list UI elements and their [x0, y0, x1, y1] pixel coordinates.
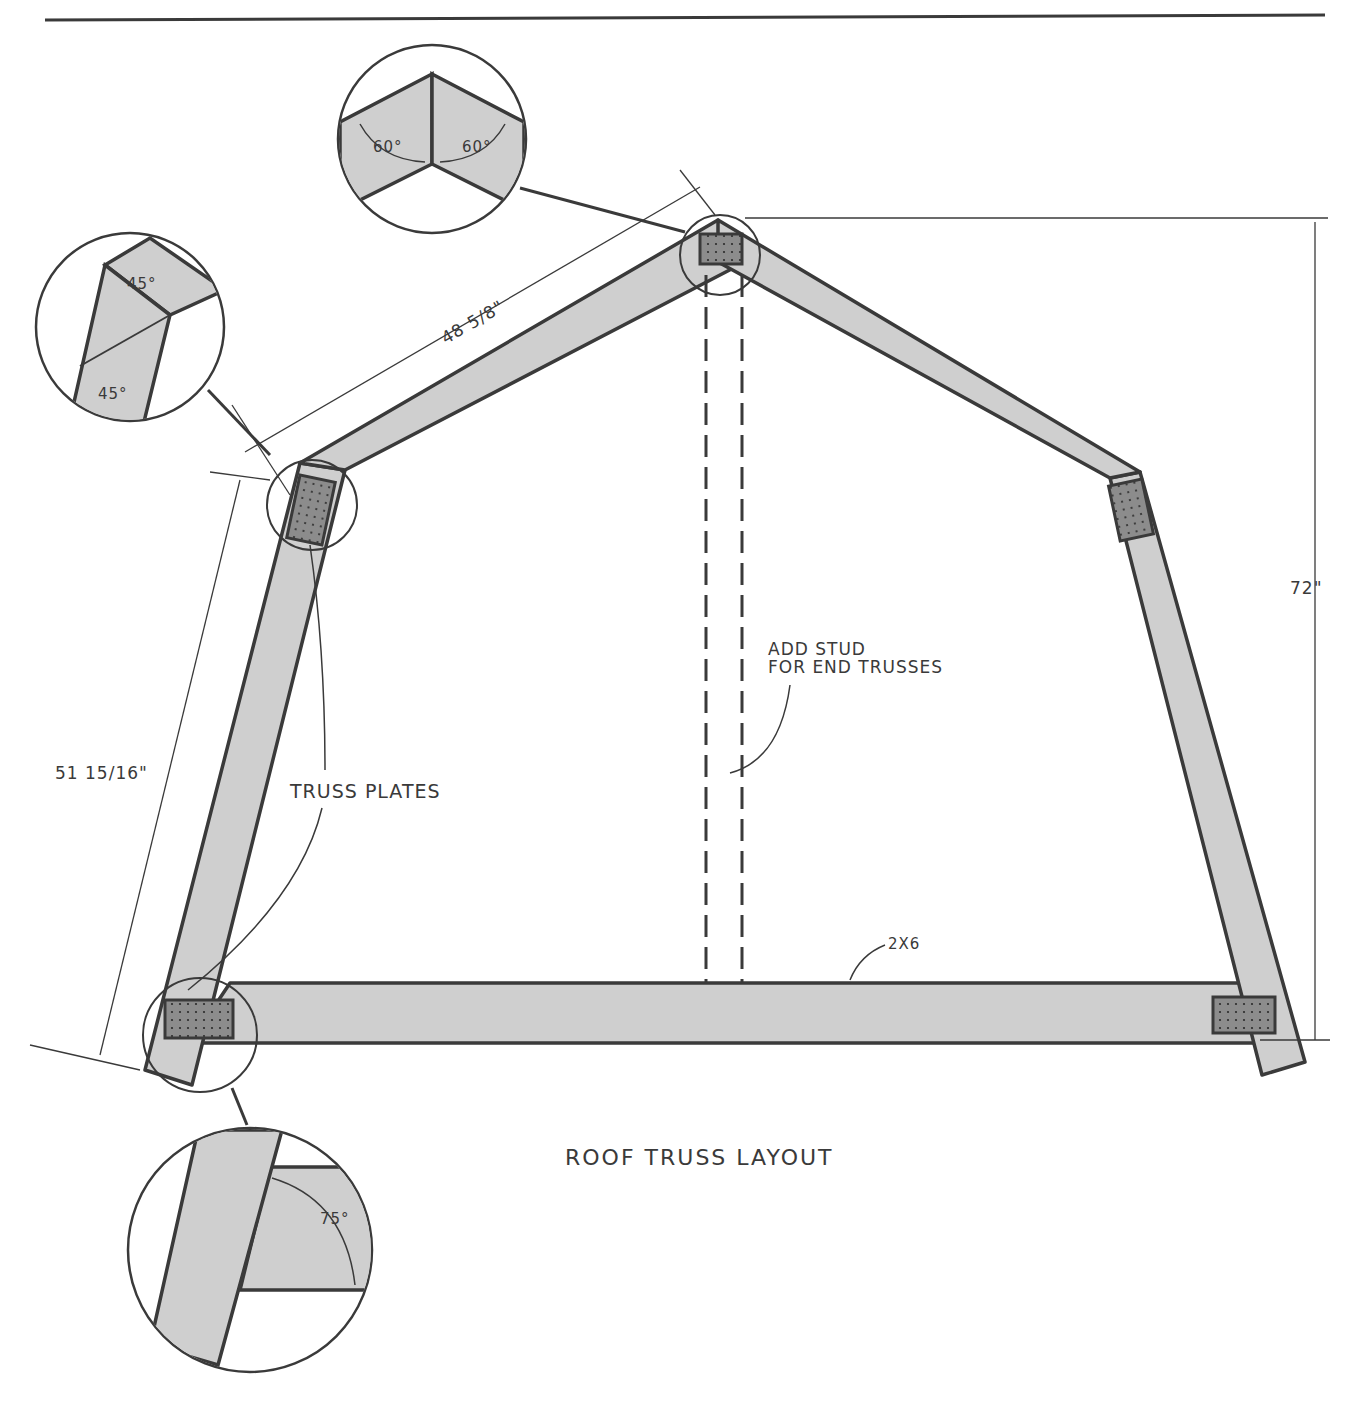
truss-plate-left-heel: [165, 1000, 233, 1038]
ridge-joint-detail: [338, 45, 526, 233]
knee-angle-upper: 45°: [127, 275, 157, 293]
overall-height-dimension: 72": [1290, 578, 1322, 598]
knee-joint-detail: [36, 233, 225, 430]
bottom-chord: [190, 983, 1255, 1043]
lower-chord-dimension: 51 15/16": [55, 763, 148, 783]
truss-plate-right-heel: [1213, 997, 1275, 1033]
heel-joint-detail: [128, 1128, 380, 1372]
ridge-angle-right: 60°: [462, 138, 492, 156]
add-stud-callout: ADD STUD FOR END TRUSSES: [768, 640, 943, 676]
truss-plates-callout: TRUSS PLATES: [290, 780, 441, 802]
right-upper-rafter: [718, 220, 1140, 478]
truss-plate-right-knee: [1109, 479, 1154, 541]
lumber-size-callout: 2X6: [888, 935, 920, 953]
roof-truss-drawing: [0, 0, 1369, 1417]
heel-angle: 75°: [320, 1210, 350, 1228]
knee-angle-lower: 45°: [98, 385, 128, 403]
header-rule: [45, 15, 1325, 20]
truss-members: [145, 220, 1305, 1085]
add-stud-line-2: FOR END TRUSSES: [768, 658, 943, 676]
truss-plates: [165, 234, 1275, 1038]
truss-plate-ridge: [700, 234, 742, 264]
joint-markers: [143, 215, 760, 1092]
drawing-title: ROOF TRUSS LAYOUT: [565, 1145, 834, 1170]
end-truss-stud: [706, 275, 742, 983]
ridge-angle-left: 60°: [373, 138, 403, 156]
add-stud-line-1: ADD STUD: [768, 640, 943, 658]
left-upper-rafter: [300, 220, 745, 470]
